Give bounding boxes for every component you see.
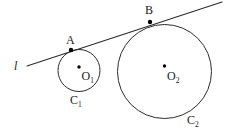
label-center-o1-base: O	[82, 69, 91, 83]
tangent-point-a	[69, 48, 73, 52]
circle-c2	[118, 25, 212, 119]
label-circle-c1-subscript: 1	[78, 100, 82, 109]
label-point-b: B	[145, 3, 153, 17]
geometry-figure: l A B O1 O2 C1 C2	[0, 0, 229, 137]
label-circle-c1: C1	[70, 93, 82, 109]
label-center-o2: O2	[167, 69, 180, 85]
label-center-o2-subscript: 2	[176, 76, 180, 85]
label-circle-c2: C2	[187, 113, 199, 129]
label-center-o1-subscript: 1	[90, 76, 94, 85]
circle-c1	[58, 50, 100, 92]
label-circle-c2-base: C	[187, 113, 195, 127]
figure-svg: l A B O1 O2 C1 C2	[0, 0, 229, 137]
label-circle-c1-base: C	[70, 93, 78, 107]
label-center-o2-base: O	[167, 69, 176, 83]
label-circle-c2-subscript: 2	[195, 120, 199, 129]
label-point-a: A	[66, 33, 75, 47]
label-line-l: l	[14, 59, 18, 73]
label-center-o1: O1	[82, 69, 95, 85]
center-dot-o2	[163, 64, 166, 67]
tangent-point-b	[148, 20, 152, 24]
center-dot-o1	[77, 65, 80, 68]
